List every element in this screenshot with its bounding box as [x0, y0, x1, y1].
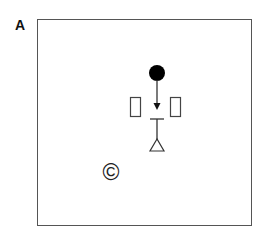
right-rectangle — [171, 98, 181, 117]
diagram-canvas — [0, 0, 269, 233]
open-triangle-icon — [150, 139, 164, 151]
arrow-down-icon — [154, 103, 161, 110]
left-rectangle — [131, 98, 141, 117]
filled-circle-icon — [149, 65, 165, 81]
copyright-icon: © — [99, 160, 123, 184]
